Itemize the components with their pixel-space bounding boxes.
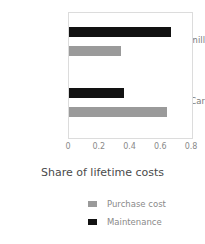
x-tick-label-0-4: 0.4 bbox=[123, 142, 136, 152]
legend-swatch-maintenance bbox=[88, 219, 97, 225]
x-axis-title: Share of lifetime costs bbox=[0, 166, 205, 180]
bar-chart: Rolling mill Car 00.20.40.60.8 Share of … bbox=[0, 0, 205, 244]
legend-label-purchase-cost: Purchase cost bbox=[107, 199, 166, 209]
x-tick-label-0-2: 0.2 bbox=[92, 142, 105, 152]
bar-maintenance-rolling-mill bbox=[69, 27, 171, 37]
legend-swatch-purchase-cost bbox=[88, 201, 97, 207]
x-tick-label-0-6: 0.6 bbox=[154, 142, 167, 152]
bar-maintenance-car bbox=[69, 88, 124, 98]
bar-purchase-cost-car bbox=[69, 107, 167, 117]
legend-item-maintenance: Maintenance bbox=[0, 214, 205, 232]
legend-item-purchase-cost: Purchase cost bbox=[0, 196, 205, 214]
chart-legend: Purchase cost Maintenance bbox=[0, 196, 205, 232]
bar-purchase-cost-rolling-mill bbox=[69, 46, 121, 56]
x-tick-label-0-8: 0.8 bbox=[185, 142, 198, 152]
legend-label-maintenance: Maintenance bbox=[107, 217, 162, 227]
x-tick-label-0: 0 bbox=[65, 142, 70, 152]
plot-area bbox=[68, 12, 193, 139]
